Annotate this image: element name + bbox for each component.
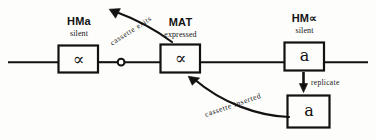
- locus-state-mat: expressed: [154, 31, 207, 39]
- locus-content-hm-left: ∝: [58, 51, 99, 68]
- locus-title-hm-left: HMa: [58, 16, 100, 27]
- mating-type-switching-diagram: HMa silent ∝ MAT expressed ∝ HM∝ silent …: [0, 0, 376, 140]
- locus-content-mat: ∝: [160, 50, 201, 67]
- locus-content-hm-right: a: [284, 48, 325, 64]
- locus-title-mat: MAT: [158, 17, 203, 28]
- arrow-label-replicate: replicate: [311, 79, 340, 87]
- locus-state-hm-right: silent: [281, 27, 328, 35]
- arrow-replicate: [299, 72, 307, 93]
- centromere-icon: [118, 59, 125, 66]
- locus-content-replicated-copy: a: [288, 103, 330, 119]
- locus-state-hm-left: silent: [58, 30, 100, 38]
- locus-title-hm-right: HM∝: [281, 13, 328, 24]
